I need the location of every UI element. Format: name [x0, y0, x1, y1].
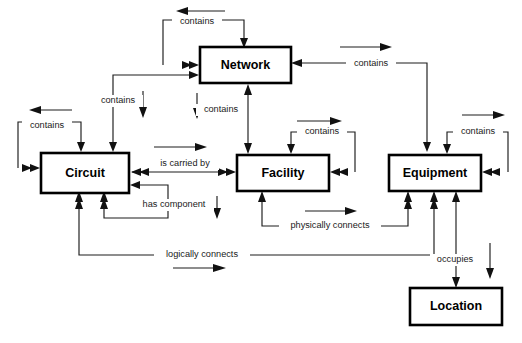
node-network-label: Network	[221, 58, 270, 72]
direction-arrow-physically-connects	[305, 207, 357, 215]
edge-label-text: contains	[180, 16, 215, 26]
edge-label-is-carried-by: is carried by	[151, 158, 219, 170]
diagram-svg-surface: Network Circuit Facility Equipment Locat…	[0, 0, 522, 343]
direction-arrow-equipment-contains-network	[340, 43, 392, 51]
edge-label-equipment-contains-self: contains	[453, 126, 503, 138]
direction-arrow-equipment-self	[462, 111, 505, 119]
edge-label-network-contains-facility: contains	[196, 104, 246, 116]
edge-label-network-contains-self: contains	[172, 16, 222, 28]
node-location[interactable]: Location	[410, 288, 502, 325]
arrowhead-up-into-network	[244, 84, 252, 95]
node-location-label: Location	[430, 299, 482, 313]
arrowhead-up-into-equipment-e	[452, 191, 460, 202]
arrowhead-down-into-circuit-a	[109, 142, 117, 152]
edge-label-text: logically connects	[166, 249, 238, 259]
edge-label-text: contains	[101, 95, 136, 105]
edge-network-facility-link	[244, 84, 252, 154]
arrowhead-down-into-equipment-b	[443, 144, 451, 154]
node-equipment-label: Equipment	[403, 166, 468, 180]
er-diagram-canvas: Network Circuit Facility Equipment Locat…	[0, 0, 522, 343]
node-circuit[interactable]: Circuit	[41, 153, 129, 193]
nodes-layer: Network Circuit Facility Equipment Locat…	[41, 47, 502, 325]
direction-arrow-has-component	[213, 196, 221, 219]
edge-label-text: contains	[305, 126, 340, 136]
node-network[interactable]: Network	[200, 47, 291, 83]
arrowhead-down-into-circuit-b	[77, 142, 85, 152]
direction-arrow-network-self	[176, 7, 225, 15]
arrowhead-down-into-facility-a	[244, 143, 252, 154]
direction-arrow-circuit-self	[29, 106, 72, 114]
arrowhead-up-into-facility-a	[258, 191, 266, 202]
edge-label-circuit-contains-self: contains	[22, 120, 72, 132]
edge-label-text: contains	[30, 120, 65, 130]
edge-label-text: occupies	[437, 254, 474, 264]
edge-label-has-component: has component	[134, 199, 214, 211]
arrowhead-down-into-location	[452, 277, 460, 288]
edge-label-occupies: occupies	[430, 254, 480, 266]
arrowhead-right-into-network-c	[189, 71, 199, 79]
node-facility[interactable]: Facility	[237, 155, 329, 191]
edge-circuit-contains-network	[109, 71, 199, 152]
arrowhead-left-into-network	[291, 59, 302, 67]
edge-circuit-logically-connects-equipment	[75, 191, 438, 272]
edge-equipment-occupies-location	[452, 191, 494, 288]
direction-arrow-is-carried-by	[154, 143, 207, 151]
direction-arrow-occupies	[486, 243, 494, 279]
arrowhead-down-into-facility-b	[287, 144, 295, 154]
direction-arrow-logically-connects	[173, 264, 226, 272]
edge-label-text: contains	[354, 58, 389, 68]
node-circuit-label: Circuit	[65, 166, 105, 180]
edge-label-logically-connects: logically connects	[154, 249, 250, 261]
direction-arrow-facility-self	[297, 117, 342, 125]
arrowhead-left-into-circuit-c	[130, 181, 140, 189]
edge-label-text: has component	[143, 199, 206, 209]
edge-label-text: is carried by	[160, 158, 210, 168]
edge-label-circuit-contains-network: contains	[93, 95, 143, 107]
node-facility-label: Facility	[261, 166, 304, 180]
edge-label-text: contains	[204, 104, 239, 114]
edge-label-text: physically connects	[290, 220, 370, 230]
arrowhead-down-into-equipment-a	[423, 142, 431, 152]
node-equipment[interactable]: Equipment	[389, 155, 481, 191]
edge-label-physically-connects: physically connects	[279, 220, 381, 232]
edge-label-equipment-contains-network: contains	[346, 58, 396, 70]
edge-label-facility-contains-self: contains	[297, 126, 347, 138]
edge-label-text: contains	[461, 126, 496, 136]
